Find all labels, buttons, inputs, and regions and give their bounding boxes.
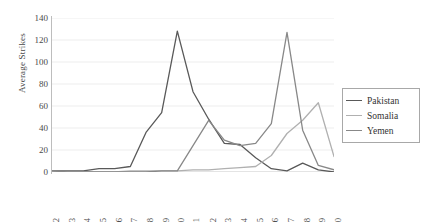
- x-axis-tick-labels: 2002200320042005200620072008200920102011…: [52, 174, 334, 222]
- x-tick-label: 2011: [191, 210, 201, 222]
- x-tick-label: 2018: [301, 210, 311, 223]
- x-tick-label: 2008: [145, 210, 155, 223]
- series-line-pakistan: [52, 31, 334, 172]
- y-tick-label: 120: [18, 35, 48, 45]
- x-tick-label: 2002: [51, 210, 61, 223]
- x-tick-label: 2019: [317, 210, 327, 223]
- x-tick-label: 2017: [286, 210, 296, 223]
- plot-area: [52, 18, 334, 172]
- legend-line-icon: [346, 130, 362, 132]
- x-tick-label: 2013: [223, 210, 233, 223]
- x-tick-label: 2020: [333, 210, 343, 223]
- y-tick-label: 60: [18, 101, 48, 111]
- x-tick-label: 2014: [239, 210, 249, 223]
- y-tick-label: 20: [18, 145, 48, 155]
- y-axis-tick-labels: 020406080100120140: [18, 0, 48, 222]
- x-tick-label: 2009: [160, 210, 170, 223]
- legend-label: Pakistan: [367, 96, 399, 106]
- x-tick-label: 2016: [270, 210, 280, 223]
- series-line-yemen: [52, 32, 334, 172]
- x-tick-label: 2006: [113, 210, 123, 223]
- legend-label: Somalia: [367, 111, 398, 121]
- legend-label: Yemen: [367, 126, 393, 136]
- x-tick-label: 2012: [207, 210, 217, 223]
- legend-item-pakistan[interactable]: Pakistan: [346, 93, 416, 108]
- x-tick-label: 2015: [254, 210, 264, 223]
- series-lines: [52, 18, 334, 172]
- legend-line-icon: [346, 100, 362, 102]
- legend-line-icon: [346, 115, 362, 117]
- y-tick-label: 140: [18, 13, 48, 23]
- x-tick-label: 2007: [129, 210, 139, 223]
- x-tick-label: 2003: [66, 210, 76, 223]
- chart-container: Average Strikes 020406080100120140 20022…: [0, 0, 426, 222]
- y-tick-label: 0: [18, 167, 48, 177]
- x-tick-label: 2005: [98, 210, 108, 223]
- legend-item-yemen[interactable]: Yemen: [346, 123, 416, 138]
- chart-legend: PakistanSomaliaYemen: [342, 88, 420, 143]
- x-tick-label: 2010: [176, 210, 186, 223]
- y-tick-label: 100: [18, 57, 48, 67]
- x-tick-label: 2004: [82, 210, 92, 223]
- legend-item-somalia[interactable]: Somalia: [346, 108, 416, 123]
- y-tick-label: 40: [18, 123, 48, 133]
- y-tick-label: 80: [18, 79, 48, 89]
- series-line-somalia: [52, 103, 334, 172]
